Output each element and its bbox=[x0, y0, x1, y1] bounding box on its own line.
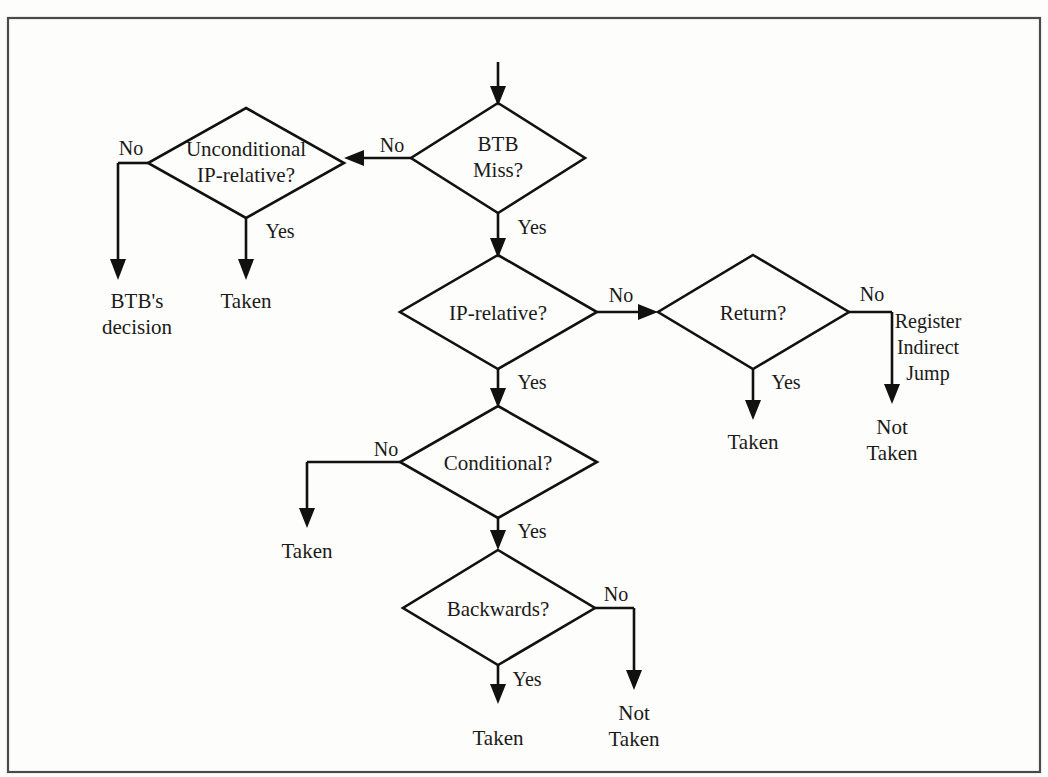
edge-iprelative-no bbox=[597, 304, 658, 320]
edge-return-no bbox=[849, 312, 900, 404]
node-conditional[interactable]: Conditional? bbox=[400, 406, 597, 518]
terminal-btb-decision-line1: BTB's bbox=[111, 289, 164, 313]
terminal-not-taken-backwards: Not Taken bbox=[608, 701, 660, 751]
edge-iprelative-yes bbox=[490, 369, 506, 408]
edge-label-btb-miss-no: No bbox=[380, 134, 404, 156]
node-return[interactable]: Return? bbox=[658, 255, 849, 369]
ip-relative-label: IP-relative? bbox=[449, 301, 547, 325]
note-register-indirect-jump: Register Indirect Jump bbox=[895, 310, 962, 385]
flowchart-svg: BTB Miss? Unconditional IP-relative? IP-… bbox=[0, 0, 1048, 777]
edge-label-return-yes: Yes bbox=[771, 371, 800, 393]
unconditional-label-line1: Unconditional bbox=[186, 137, 306, 161]
edge-label-uncond-no: No bbox=[119, 137, 143, 159]
node-ip-relative[interactable]: IP-relative? bbox=[400, 255, 597, 369]
edge-uncond-yes bbox=[238, 218, 254, 280]
terminal-taken-unconditional-label: Taken bbox=[220, 289, 272, 313]
terminal-not-taken-register-line2: Taken bbox=[866, 441, 918, 465]
figure-canvas: BTB Miss? Unconditional IP-relative? IP-… bbox=[0, 0, 1048, 777]
note-register-indirect-jump-line1: Register bbox=[895, 310, 962, 333]
terminal-taken-conditional: Taken bbox=[281, 539, 333, 563]
edge-conditional-yes bbox=[490, 518, 506, 550]
edge-label-return-no: No bbox=[860, 283, 884, 305]
terminal-btb-decision-line2: decision bbox=[102, 315, 172, 339]
terminal-not-taken-backwards-line1: Not bbox=[618, 701, 650, 725]
edge-label-conditional-yes: Yes bbox=[517, 520, 546, 542]
edge-conditional-no bbox=[299, 462, 400, 528]
node-btb-miss[interactable]: BTB Miss? bbox=[411, 103, 585, 213]
terminal-taken-unconditional: Taken bbox=[220, 289, 272, 313]
return-label: Return? bbox=[720, 301, 786, 325]
edge-label-conditional-no: No bbox=[374, 438, 398, 460]
terminal-not-taken-backwards-line2: Taken bbox=[608, 727, 660, 751]
note-register-indirect-jump-line2: Indirect bbox=[897, 336, 960, 358]
terminal-taken-backwards: Taken bbox=[472, 726, 524, 750]
edge-label-backwards-yes: Yes bbox=[512, 668, 541, 690]
edge-label-uncond-yes: Yes bbox=[265, 220, 294, 242]
terminal-taken-conditional-label: Taken bbox=[281, 539, 333, 563]
edge-label-btb-miss-yes: Yes bbox=[517, 216, 546, 238]
edge-uncond-no bbox=[110, 163, 148, 280]
backwards-label: Backwards? bbox=[447, 597, 550, 621]
terminal-taken-return-label: Taken bbox=[727, 430, 779, 454]
unconditional-label-line2: IP-relative? bbox=[197, 163, 295, 187]
terminal-taken-backwards-label: Taken bbox=[472, 726, 524, 750]
edge-btbmiss-yes bbox=[490, 213, 506, 258]
node-unconditional-ip-relative[interactable]: Unconditional IP-relative? bbox=[148, 108, 344, 218]
note-register-indirect-jump-line3: Jump bbox=[906, 362, 949, 385]
figure-frame bbox=[8, 18, 1040, 772]
entry-arrow bbox=[490, 62, 506, 106]
terminal-taken-return: Taken bbox=[727, 430, 779, 454]
edge-label-ip-relative-no: No bbox=[609, 284, 633, 306]
conditional-label: Conditional? bbox=[444, 451, 553, 475]
edge-label-ip-relative-yes: Yes bbox=[517, 371, 546, 393]
edge-return-yes bbox=[745, 369, 761, 420]
edge-label-backwards-no: No bbox=[604, 583, 628, 605]
terminal-not-taken-register: Not Taken bbox=[866, 415, 918, 465]
btb-miss-label-line1: BTB bbox=[478, 132, 519, 156]
edge-backwards-no bbox=[595, 608, 642, 690]
node-backwards[interactable]: Backwards? bbox=[403, 550, 595, 665]
terminal-not-taken-register-line1: Not bbox=[876, 415, 908, 439]
edge-backwards-yes bbox=[490, 665, 506, 704]
btb-miss-label-line2: Miss? bbox=[473, 158, 523, 182]
terminal-btb-decision: BTB's decision bbox=[102, 289, 172, 339]
